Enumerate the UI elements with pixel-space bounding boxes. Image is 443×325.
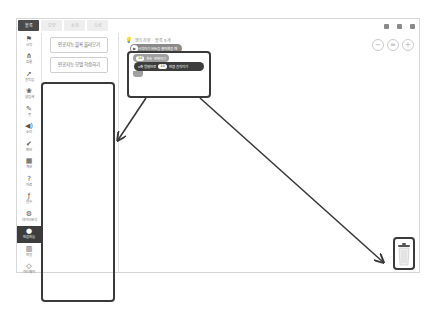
data-analysis-icon: ⚙ [26,211,32,218]
question-icon: ? [27,176,31,183]
category-start[interactable]: ⚑시작 [17,33,41,51]
category-flow[interactable]: ⋔흐름 [17,51,41,69]
minimize-icon[interactable] [384,24,389,29]
code-block-highlight [127,51,211,98]
editor-tabs: 블록 모양 소리 속성 [18,20,108,32]
zoom-reset-button[interactable]: = [387,39,399,51]
block-category-sidebar: ⚑시작 ⋔흐름 ➚움직임 ❀생김새 ✎붓 ◀)소리 ✔판단 ▦계산 ?자료 ƒ함… [17,33,42,272]
window-icon[interactable] [410,24,415,29]
trash-icon [397,242,411,266]
flag-icon: ⚑ [26,36,32,43]
train-ai-model-button[interactable]: 인공지능 모델 학습하기 [50,57,108,73]
category-brush[interactable]: ✎붓 [17,103,41,121]
trash-can[interactable] [393,237,415,270]
category-ai[interactable]: ●인공지능 [17,226,41,244]
tab-properties[interactable]: 속성 [87,20,108,31]
category-motion[interactable]: ➚움직임 [17,68,41,86]
object-label: 💡 엔트리봇 · 블록 5개 [125,36,171,43]
extension-icon: ▥ [26,246,33,253]
category-judgement[interactable]: ✔판단 [17,138,41,156]
category-data[interactable]: ?자료 [17,173,41,191]
category-extension[interactable]: ▥확장 [17,243,41,261]
fullscreen-icon[interactable] [397,24,402,29]
category-looks[interactable]: ❀생김새 [17,86,41,104]
bulb-icon: 💡 [125,36,132,43]
view-controls [384,24,415,29]
category-sound[interactable]: ◀)소리 [17,121,41,139]
tab-blocks[interactable]: 블록 [18,20,39,31]
motion-icon: ➚ [26,71,32,78]
category-function[interactable]: ƒ함수 [17,191,41,209]
palette-drop-zone-highlight [41,82,115,302]
category-data-analysis[interactable]: ⚙데이터분석 [17,208,41,226]
check-icon: ✔ [26,141,32,148]
tab-sounds[interactable]: 소리 [64,20,85,31]
zoom-in-button[interactable]: + [402,39,414,51]
zoom-controls: − = + [372,39,414,51]
tab-shapes[interactable]: 모양 [41,20,62,31]
zoom-out-button[interactable]: − [372,39,384,51]
category-hardware[interactable]: ◇하드웨어 [17,261,41,279]
load-ai-blocks-button[interactable]: 인공지능 블록 불러오기 [50,37,108,53]
brush-icon: ✎ [26,106,32,113]
category-calculation[interactable]: ▦계산 [17,156,41,174]
